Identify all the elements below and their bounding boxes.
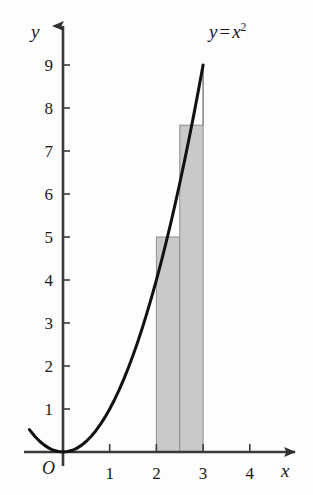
x-tick-label-2: 2 [146,465,166,482]
x-axis-label: x [281,461,289,480]
y-tick-label-5: 5 [31,229,53,246]
x-tick-label-4: 4 [240,465,260,482]
y-tick-label-7: 7 [31,143,53,160]
equation-variable: x [232,21,240,42]
x-tick-label-1: 1 [100,465,120,482]
riemann-bar-2 [180,125,203,452]
x-tick-label-3: 3 [193,465,213,482]
bars-group [156,125,203,452]
origin-label: O [42,459,55,477]
figure-parabola-riemann: 123456789 1234 y x O y=x2 [0,0,313,495]
y-tick-label-1: 1 [31,401,53,418]
y-axis-label: y [31,22,39,41]
y-tick-label-3: 3 [31,315,53,332]
equation-exponent: 2 [241,21,247,34]
y-tick-label-9: 9 [31,57,53,74]
y-tick-label-2: 2 [31,358,53,375]
y-tick-label-4: 4 [31,272,53,289]
curve-equation-label: y=x2 [209,22,246,41]
y-tick-label-6: 6 [31,186,53,203]
equation-equals: = [217,21,232,42]
y-tick-label-8: 8 [31,100,53,117]
